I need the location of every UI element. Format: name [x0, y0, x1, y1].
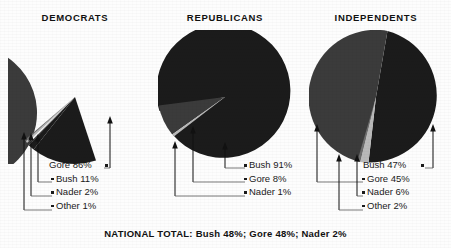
panel-republicans: REPUBLICANS	[150, 0, 300, 222]
national-total-caption: NATIONAL TOTAL: Bush 48%; Gore 48%; Nade…	[0, 228, 451, 239]
leader-lines-republicans	[150, 0, 300, 222]
arrow-other	[21, 132, 27, 210]
leader-lines-independents	[301, 0, 451, 222]
panel-independents: INDEPENDENTS	[301, 0, 451, 222]
arrow-gore	[314, 124, 320, 182]
arrow-nader	[28, 133, 34, 196]
arrow-gore	[107, 116, 113, 168]
leader-lines-democrats	[0, 0, 150, 222]
arrow-nader	[354, 154, 360, 196]
arrow-gore	[190, 126, 196, 182]
arrow-bush	[430, 124, 436, 168]
panel-democrats: DEMOCRATS	[0, 0, 150, 222]
arrow-nader	[172, 141, 178, 196]
arrow-bush	[35, 134, 41, 182]
arrow-bush	[222, 142, 228, 168]
pie-chart-figure: DEMOCRATS	[0, 0, 451, 248]
